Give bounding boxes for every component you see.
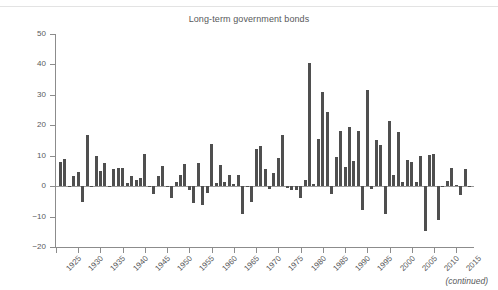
bar [268, 186, 271, 189]
bar [157, 176, 160, 186]
chart-figure: Long-term government bonds (continued) 5… [0, 0, 498, 290]
bar [206, 186, 209, 193]
y-axis-tick [50, 186, 55, 187]
x-axis-label: 1980 [309, 254, 328, 273]
bar [72, 176, 75, 186]
chart-title: Long-term government bonds [0, 14, 498, 24]
x-axis-tick [345, 248, 346, 253]
x-axis-tick [256, 248, 257, 253]
bar [179, 175, 182, 186]
y-axis-label: 20 [6, 121, 46, 129]
x-axis-label: 1985 [331, 254, 350, 273]
bar [295, 186, 298, 190]
bar [219, 165, 222, 186]
bar [175, 182, 178, 186]
bar [77, 172, 80, 186]
bar [392, 175, 395, 186]
bar [108, 186, 111, 187]
x-axis-tick [434, 248, 435, 253]
bar [197, 163, 200, 186]
bar [277, 158, 280, 186]
y-axis-label: 30 [6, 91, 46, 99]
x-axis-label: 1940 [131, 254, 150, 273]
y-axis-tick [50, 156, 55, 157]
x-axis-label: 1990 [353, 254, 372, 273]
x-axis-tick [390, 248, 391, 253]
x-axis-label: 2005 [420, 254, 439, 273]
x-axis-tick [234, 248, 235, 253]
bar [326, 112, 329, 187]
bar [410, 162, 413, 186]
bar [121, 168, 124, 187]
x-axis-tick [301, 248, 302, 253]
bar [357, 131, 360, 186]
x-axis-label: 2000 [398, 254, 417, 273]
x-axis-label: 1975 [287, 254, 306, 273]
bar [148, 186, 151, 187]
y-axis-tick [50, 95, 55, 96]
bar [188, 186, 191, 190]
x-axis-tick [323, 248, 324, 253]
x-axis-tick [212, 248, 213, 253]
bar [117, 168, 120, 186]
bar [464, 169, 467, 186]
bar [308, 63, 311, 186]
x-axis-tick [412, 248, 413, 253]
x-axis-tick [145, 248, 146, 253]
zero-baseline [56, 186, 474, 187]
bar [59, 162, 62, 186]
bar [228, 175, 231, 186]
x-axis-label: 1945 [153, 254, 172, 273]
bar [241, 186, 244, 214]
bar [103, 163, 106, 186]
bar [379, 145, 382, 186]
bar [446, 181, 449, 186]
y-axis-tick [50, 34, 55, 35]
bar [304, 180, 307, 186]
bar [432, 154, 435, 187]
bar [183, 164, 186, 186]
bar [232, 184, 235, 186]
bar [401, 182, 404, 187]
bar [330, 186, 333, 194]
x-axis-label: 1965 [242, 254, 261, 273]
bar [192, 186, 195, 203]
y-axis-tick [50, 247, 55, 248]
bar [210, 144, 213, 186]
continued-note: (continued) [445, 276, 488, 286]
bar [255, 149, 258, 186]
bar [437, 186, 440, 220]
bar [152, 186, 155, 194]
x-axis-tick [78, 248, 79, 253]
bar [450, 168, 453, 186]
bar [170, 186, 173, 198]
y-axis-label: 10 [6, 152, 46, 160]
bar [68, 186, 71, 187]
bar [63, 159, 66, 186]
y-axis-tick [50, 64, 55, 65]
bar [441, 186, 444, 187]
bar [139, 178, 142, 187]
bar [468, 186, 471, 187]
bar [370, 186, 373, 189]
top-rule-divider [0, 6, 498, 7]
bar [81, 186, 84, 202]
y-axis-label: −10 [6, 213, 46, 221]
bar [406, 160, 409, 186]
bar [388, 121, 391, 186]
bar [161, 166, 164, 186]
x-axis-label: 1925 [64, 254, 83, 273]
x-axis-tick [278, 248, 279, 253]
bar [335, 157, 338, 187]
x-axis-label: 1935 [109, 254, 128, 273]
bar [259, 146, 262, 186]
bar [299, 186, 302, 198]
bar [264, 169, 267, 186]
y-axis-tick [50, 217, 55, 218]
bar [352, 161, 355, 186]
y-axis-label: 50 [6, 30, 46, 38]
bar [130, 176, 133, 186]
bar [86, 135, 89, 186]
bar [424, 186, 427, 231]
bar [135, 180, 138, 186]
